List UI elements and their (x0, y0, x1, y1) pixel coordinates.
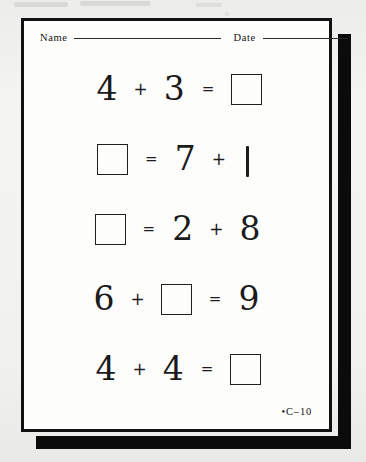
scan-artifact (14, 2, 68, 7)
date-label: Date (233, 32, 255, 43)
equation-row: 4+4= (24, 347, 329, 393)
equation-row: 4+3= (24, 67, 329, 113)
plus-operator: + (212, 149, 226, 169)
numeral: 3 (164, 72, 185, 105)
equation-row: 6+=9 (24, 277, 329, 323)
numeral: 6 (94, 282, 115, 315)
scan-artifact (196, 3, 222, 7)
equation-row: =2+8 (24, 207, 329, 253)
name-field[interactable]: Name (40, 32, 221, 43)
page-shadow-right (338, 34, 351, 440)
plus-operator: + (131, 289, 145, 309)
numeral: 7 (175, 142, 196, 175)
worksheet-page: Name Date 4+3==7+=2+86+=94+4= •C–10 (21, 18, 332, 432)
numeral: 4 (97, 72, 118, 105)
answer-box[interactable] (231, 74, 262, 105)
numeral: 8 (239, 212, 260, 245)
answer-box[interactable] (161, 284, 192, 315)
numeral (246, 146, 249, 177)
equation-row: =7+ (24, 137, 329, 183)
equals-operator: = (145, 150, 158, 168)
equals-operator: = (143, 220, 156, 238)
equals-operator: = (209, 290, 222, 308)
problem-list: 4+3==7+=2+86+=94+4= (24, 63, 329, 393)
plus-operator: + (209, 219, 223, 239)
numeral: 9 (238, 282, 259, 315)
answer-box[interactable] (230, 354, 261, 385)
name-rule-line[interactable] (74, 38, 221, 39)
plus-operator: + (133, 359, 147, 379)
answer-box[interactable] (95, 214, 126, 245)
page-code: •C–10 (282, 406, 312, 417)
date-field[interactable]: Date (233, 32, 347, 43)
worksheet-header: Name Date (24, 32, 329, 54)
date-rule-line[interactable] (263, 38, 348, 39)
numeral: 2 (172, 212, 193, 245)
equals-operator: = (201, 360, 214, 378)
answer-box[interactable] (97, 144, 128, 175)
numeral: 4 (163, 352, 184, 385)
name-label: Name (40, 32, 67, 43)
equals-operator: = (202, 80, 215, 98)
page-shadow-bottom (36, 436, 351, 449)
scan-artifact (80, 1, 150, 6)
plus-operator: + (134, 79, 148, 99)
numeral: 4 (96, 352, 117, 385)
